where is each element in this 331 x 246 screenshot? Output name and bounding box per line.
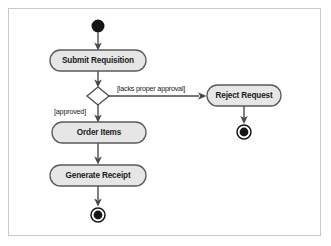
flow-submit-to-decision — [94, 71, 102, 88]
activity-node-submit-requisition[interactable]: Submit Requisition — [50, 50, 146, 71]
activity-node-order-items[interactable]: Order Items — [52, 122, 146, 143]
activity-diagram: Submit Requisition [lacks proper approva… — [0, 0, 331, 246]
activity-label-submit-requisition: Submit Requisition — [62, 56, 134, 65]
flow-initial-to-submit — [94, 33, 102, 51]
decision-node[interactable] — [87, 87, 109, 105]
diagram-canvas: Submit Requisition [lacks proper approva… — [0, 0, 331, 246]
final-node-main[interactable] — [91, 208, 105, 222]
activity-label-reject-request: Reject Request — [215, 91, 272, 100]
guard-label-approved: [approved] — [54, 107, 86, 116]
flow-decision-to-order — [94, 105, 102, 123]
initial-node[interactable] — [92, 20, 105, 33]
guard-label-lacks-proper-approval: [lacks proper approval] — [117, 84, 185, 93]
flow-decision-to-reject — [109, 92, 207, 100]
flow-reject-to-final — [240, 106, 248, 124]
flow-order-to-receipt — [94, 143, 102, 165]
activity-node-reject-request[interactable]: Reject Request — [207, 85, 281, 106]
activity-node-generate-receipt[interactable]: Generate Receipt — [50, 165, 146, 186]
final-node-reject[interactable] — [237, 125, 251, 139]
activity-label-generate-receipt: Generate Receipt — [66, 171, 131, 180]
activity-label-order-items: Order Items — [77, 128, 122, 137]
flow-receipt-to-final — [94, 186, 102, 207]
